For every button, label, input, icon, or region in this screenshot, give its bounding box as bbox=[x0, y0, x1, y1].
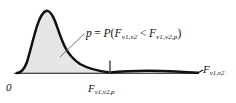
prob-function: P bbox=[103, 27, 110, 39]
prob-symbol: p bbox=[86, 27, 92, 39]
f-distribution-figure: p=P(Fν1,ν2<Fν1,ν2,p) 0 Fν1,ν2,p Fν1,ν2 bbox=[0, 0, 236, 103]
x-axis-variable-label: Fν1,ν2 bbox=[203, 64, 224, 77]
probability-expression: p=P(Fν1,ν2<Fν1,ν2,p) bbox=[86, 28, 181, 41]
close-paren: ) bbox=[177, 27, 181, 39]
distribution-svg bbox=[0, 0, 236, 103]
random-variable: F bbox=[115, 27, 122, 39]
quantile-variable-subscript: ν1,ν2,p bbox=[156, 33, 177, 41]
quantile-tick-label: Fν1,ν2,p bbox=[88, 83, 114, 96]
origin-tick-label: 0 bbox=[6, 82, 12, 93]
less-than-sign: < bbox=[137, 27, 149, 39]
x-axis-variable-subscript: ν1,ν2 bbox=[210, 69, 225, 76]
random-variable-subscript: ν1,ν2 bbox=[122, 33, 138, 41]
quantile-tick-subscript: ν1,ν2,p bbox=[95, 88, 115, 95]
equals-sign: = bbox=[92, 27, 104, 39]
quantile-tick-base: F bbox=[88, 82, 95, 94]
x-axis-variable-base: F bbox=[203, 63, 210, 75]
